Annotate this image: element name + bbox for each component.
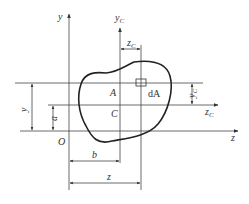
- yc-dimension-label: yC: [186, 89, 199, 99]
- a-dimension-label: a: [48, 116, 59, 121]
- y-axis-label: y: [57, 11, 63, 22]
- zc-axis-label: zC: [204, 106, 214, 119]
- element-dA-label: dA: [148, 88, 161, 99]
- zc-dimension-label: zC: [126, 37, 136, 50]
- b-dimension-label: b: [92, 149, 97, 160]
- point-a-label: A: [109, 87, 117, 98]
- diagram-canvas: y yC zC zC z A dA C O y a yC b z: [0, 0, 249, 204]
- z-axis-label: z: [230, 132, 235, 143]
- z-dimension-label: z: [106, 171, 111, 182]
- centroid-label: C: [111, 108, 118, 119]
- origin-label: O: [58, 136, 65, 147]
- y-dimension-label: y: [18, 107, 29, 113]
- yc-axis-label: yC: [114, 12, 124, 25]
- area-shape: [79, 61, 172, 142]
